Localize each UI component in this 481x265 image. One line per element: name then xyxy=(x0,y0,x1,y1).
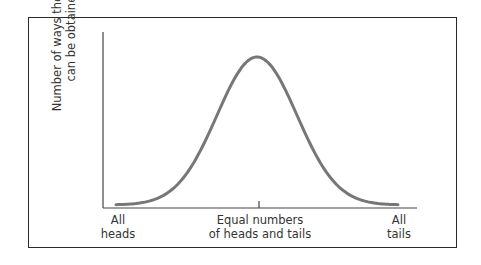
y-axis-label-line-1: Number of ways the result xyxy=(50,0,64,120)
x-label-line: tails xyxy=(379,227,419,241)
y-axis-label-line-2: can be obtained xyxy=(64,0,78,120)
x-label-line: All xyxy=(96,213,140,227)
x-label-line: All xyxy=(379,213,419,227)
x-label-line: heads xyxy=(96,227,140,241)
bell-curve xyxy=(116,57,398,205)
y-axis-label: Number of ways the result can be obtaine… xyxy=(50,0,78,120)
x-label-equal: Equal numbers of heads and tails xyxy=(199,213,321,241)
x-label-line: Equal numbers xyxy=(199,213,321,227)
x-label-all-tails: All tails xyxy=(379,213,419,241)
x-label-line: of heads and tails xyxy=(199,227,321,241)
x-label-all-heads: All heads xyxy=(96,213,140,241)
